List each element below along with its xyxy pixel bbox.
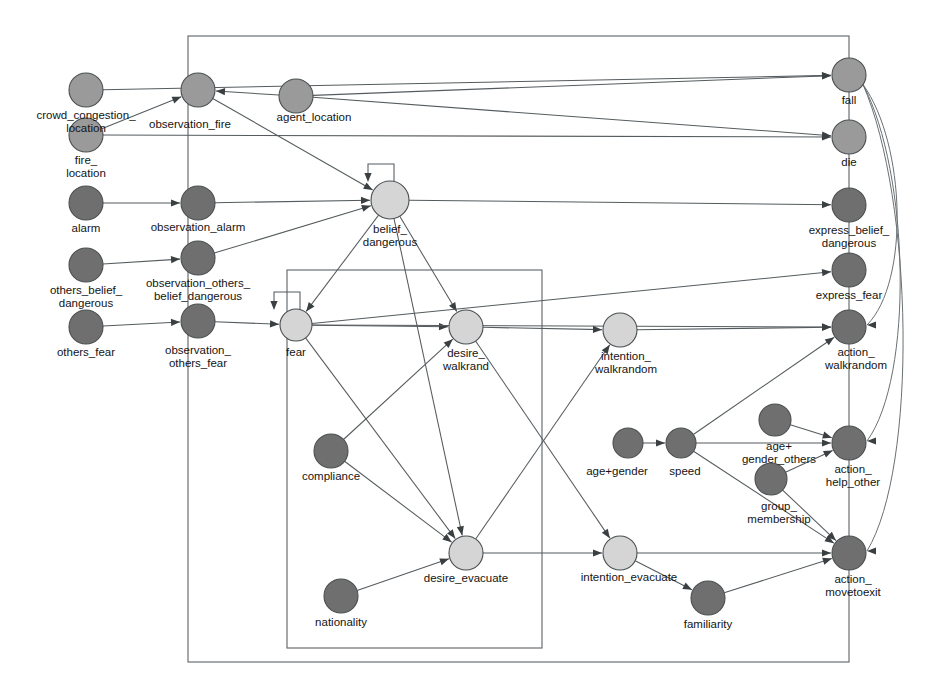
node-die[interactable] — [832, 120, 866, 154]
arrowhead — [602, 529, 610, 538]
node-circle-fear[interactable] — [280, 309, 312, 341]
arrowhead — [822, 558, 832, 565]
node-circle-observation_alarm[interactable] — [181, 186, 215, 220]
node-label-observation_alarm: observation_alarm — [151, 221, 246, 233]
node-label-others_fear: others_fear — [57, 346, 115, 358]
node-action_walkrandom[interactable] — [832, 310, 866, 344]
node-circle-observation_fire[interactable] — [181, 73, 215, 107]
node-label-crowd_congestion_location: crowd_congestion_location — [36, 109, 136, 134]
node-age_gender_others[interactable] — [759, 404, 791, 436]
node-compliance[interactable] — [314, 434, 348, 468]
node-crowd_congestion_location[interactable] — [69, 73, 103, 107]
node-others_belief_dangerous[interactable] — [69, 248, 103, 282]
arrowhead — [822, 324, 831, 331]
node-circle-fall[interactable] — [832, 58, 866, 92]
node-circle-desire_walkrand[interactable] — [449, 310, 483, 344]
node-speed[interactable] — [666, 428, 696, 458]
node-circle-alarm[interactable] — [69, 186, 103, 220]
arrowhead — [364, 173, 371, 182]
node-label-agent_location: agent_location — [277, 111, 352, 123]
node-group_membership[interactable] — [755, 463, 787, 495]
node-fear[interactable] — [280, 309, 312, 341]
node-circle-others_fear[interactable] — [69, 310, 103, 344]
node-label-nationality: nationality — [315, 616, 367, 628]
edge-age_gender-to-speed — [643, 439, 665, 446]
arrowhead — [171, 256, 180, 263]
edge-fear-to-fear — [270, 292, 300, 310]
node-belief_dangerous[interactable] — [371, 181, 409, 219]
arrowhead — [867, 321, 876, 328]
node-label-desire_evacuate: desire_evacuate — [424, 572, 508, 584]
node-others_fear[interactable] — [69, 310, 103, 344]
node-observation_others_belief_dangerous[interactable] — [181, 241, 215, 275]
arrowhead — [306, 302, 314, 311]
edge-familiarity-to-action_movetoexit — [724, 558, 832, 593]
node-action_movetoexit[interactable] — [832, 536, 866, 570]
node-circle-age_gender_others[interactable] — [759, 404, 791, 436]
node-observation_others_fear[interactable] — [181, 304, 215, 338]
node-action_help_other[interactable] — [832, 426, 866, 460]
arrowhead — [656, 439, 665, 446]
node-desire_walkrand[interactable] — [449, 310, 483, 344]
node-circle-others_belief_dangerous[interactable] — [69, 248, 103, 282]
node-circle-express_belief_dangerous[interactable] — [832, 188, 866, 222]
node-label-die: die — [841, 156, 856, 168]
node-familiarity[interactable] — [691, 581, 725, 615]
arrowhead — [822, 432, 832, 439]
node-nationality[interactable] — [324, 579, 358, 613]
edge-observation_alarm-to-belief_dangerous — [215, 197, 370, 204]
edge-age_gender_others-to-action_help_other — [790, 425, 832, 439]
node-circle-age_gender[interactable] — [613, 428, 643, 458]
node-label-observation_others_belief_dangerous: observation_others_belief_dangerous — [146, 277, 251, 302]
node-express_fear[interactable] — [832, 253, 866, 287]
arrowhead — [822, 549, 831, 556]
node-circle-intention_walkrandom[interactable] — [603, 313, 637, 347]
node-circle-crowd_congestion_location[interactable] — [69, 73, 103, 107]
edge-alarm-to-observation_alarm — [103, 199, 180, 206]
edge-belief_dangerous-to-desire_evacuate — [394, 219, 464, 536]
node-circle-observation_others_fear[interactable] — [181, 304, 215, 338]
node-circle-familiarity[interactable] — [691, 581, 725, 615]
arrowhead — [823, 451, 833, 458]
node-fall[interactable] — [832, 58, 866, 92]
edge-agent_location-to-observation_fire — [216, 88, 279, 95]
arrowhead — [825, 337, 834, 345]
arrowhead — [439, 323, 448, 330]
edge-belief_dangerous-to-desire_walkrand — [400, 216, 457, 311]
node-circle-observation_others_belief_dangerous[interactable] — [181, 241, 215, 275]
node-circle-intention_evacuate[interactable] — [603, 536, 637, 570]
diagram-canvas: crowd_congestion_locationfire_locational… — [0, 0, 943, 695]
arrowhead — [216, 88, 225, 95]
node-express_belief_dangerous[interactable] — [832, 188, 866, 222]
node-circle-agent_location[interactable] — [279, 79, 313, 113]
node-label-observation_fire: observation_fire — [149, 118, 231, 130]
arrowhead — [361, 205, 371, 212]
node-circle-action_help_other[interactable] — [832, 426, 866, 460]
node-label-express_fear: express_fear — [816, 289, 883, 301]
node-age_gender[interactable] — [613, 428, 643, 458]
node-circle-action_walkrandom[interactable] — [832, 310, 866, 344]
node-circle-compliance[interactable] — [314, 434, 348, 468]
node-label-action_walkrandom: action_walkrandom — [824, 346, 887, 371]
node-observation_fire[interactable] — [181, 73, 215, 107]
edge-fire_location-to-die — [103, 133, 831, 140]
node-circle-desire_evacuate[interactable] — [449, 536, 483, 570]
node-circle-speed[interactable] — [666, 428, 696, 458]
node-circle-die[interactable] — [832, 120, 866, 154]
node-agent_location[interactable] — [279, 79, 313, 113]
node-observation_alarm[interactable] — [181, 186, 215, 220]
node-intention_evacuate[interactable] — [603, 536, 637, 570]
node-label-desire_walkrand: desire_walkrand — [442, 347, 489, 372]
node-circle-express_fear[interactable] — [832, 253, 866, 287]
edge-others_fear-to-observation_others_fear — [103, 319, 180, 326]
node-intention_walkrandom[interactable] — [603, 313, 637, 347]
node-label-action_movetoexit: action_movetoexit — [825, 573, 881, 598]
node-circle-group_membership[interactable] — [755, 463, 787, 495]
node-circle-nationality[interactable] — [324, 579, 358, 613]
node-desire_evacuate[interactable] — [449, 536, 483, 570]
node-circle-action_movetoexit[interactable] — [832, 536, 866, 570]
node-alarm[interactable] — [69, 186, 103, 220]
node-label-express_belief_dangerous: express_belief_dangerous — [809, 224, 890, 249]
node-circle-belief_dangerous[interactable] — [371, 181, 409, 219]
arrowhead — [822, 439, 831, 446]
